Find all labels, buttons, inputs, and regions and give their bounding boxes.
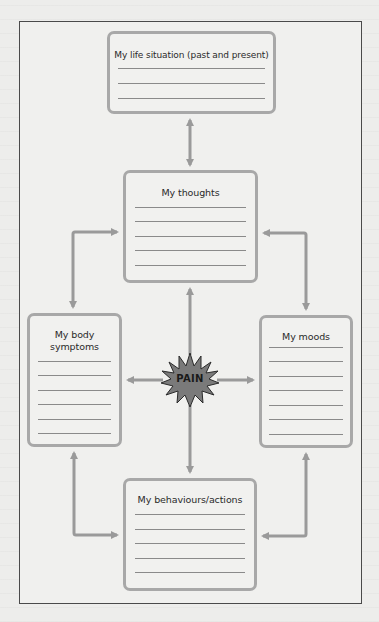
write-line[interactable] <box>118 68 265 69</box>
write-line[interactable] <box>135 572 245 573</box>
arrow-moods-behaviours <box>263 454 306 536</box>
write-line[interactable] <box>269 434 343 435</box>
write-line[interactable] <box>135 236 246 237</box>
write-line[interactable] <box>269 361 343 362</box>
write-line[interactable] <box>38 361 111 362</box>
box-title-thoughts: My thoughts <box>126 187 255 199</box>
write-line[interactable] <box>135 543 245 544</box>
write-line[interactable] <box>269 347 343 348</box>
write-line[interactable] <box>38 433 111 434</box>
write-line[interactable] <box>135 558 245 559</box>
write-line[interactable] <box>269 405 343 406</box>
write-line[interactable] <box>118 83 265 84</box>
write-line[interactable] <box>135 529 245 530</box>
write-line[interactable] <box>38 419 111 420</box>
write-line[interactable] <box>269 376 343 377</box>
write-line[interactable] <box>135 221 246 222</box>
box-title-moods: My moods <box>262 331 350 343</box>
box-body-symptoms: My body symptoms <box>27 313 122 447</box>
write-line[interactable] <box>118 98 265 99</box>
write-line[interactable] <box>38 404 111 405</box>
pain-label: PAIN <box>170 373 210 384</box>
write-line[interactable] <box>269 419 343 420</box>
arrow-thoughts-moods <box>264 233 306 309</box>
write-line[interactable] <box>38 375 111 376</box>
box-title-life-situation: My life situation (past and present) <box>110 49 273 61</box>
write-line[interactable] <box>135 207 246 208</box>
arrow-body-behaviours <box>74 453 117 535</box>
box-behaviours: My behaviours/actions <box>123 478 257 591</box>
box-thoughts: My thoughts <box>123 170 258 283</box>
arrow-thoughts-body <box>73 232 117 307</box>
write-line[interactable] <box>38 390 111 391</box>
write-line[interactable] <box>135 250 246 251</box>
box-title-behaviours: My behaviours/actions <box>126 494 254 506</box>
write-line[interactable] <box>135 514 245 515</box>
write-line[interactable] <box>135 265 246 266</box>
box-life-situation: My life situation (past and present) <box>107 31 276 114</box>
box-moods: My moods <box>259 315 353 448</box>
box-title-body-symptoms: My body symptoms <box>44 329 105 353</box>
write-line[interactable] <box>269 390 343 391</box>
